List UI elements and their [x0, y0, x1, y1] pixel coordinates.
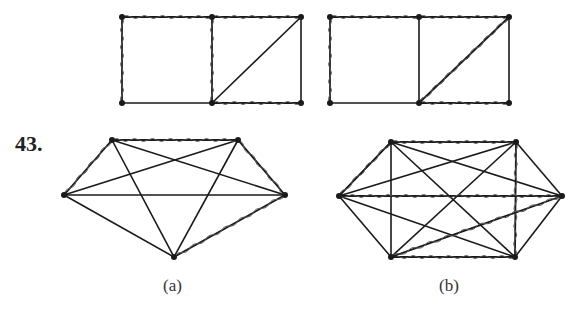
figure-label-b: (b)	[439, 276, 459, 296]
graph-vertex	[209, 100, 215, 106]
circuit-wave-mark	[391, 141, 516, 144]
graph-vertex	[559, 193, 565, 199]
graph-vertex	[336, 193, 342, 199]
graph-vertex	[119, 100, 125, 106]
graph-vertex	[235, 137, 241, 143]
graph-vertex	[506, 100, 512, 106]
graph-vertex	[171, 254, 177, 260]
top-right-grid-figure	[327, 14, 512, 106]
complete-graph-k5-figure	[61, 137, 288, 260]
top-left-grid-figure	[119, 14, 304, 106]
graph-vertex	[119, 14, 125, 20]
circuit-wave-mark	[419, 17, 509, 103]
graph-vertex	[209, 14, 215, 20]
complete-graph-k6-figure	[336, 139, 565, 260]
graph-vertex	[388, 139, 394, 145]
graph-vertex	[416, 14, 422, 20]
graph-vertex	[298, 100, 304, 106]
graph-vertex	[109, 137, 115, 143]
circuit-wave-mark	[391, 196, 562, 257]
graph-vertex	[282, 192, 288, 198]
graph-vertex	[506, 14, 512, 20]
graph-vertex	[513, 139, 519, 145]
graph-vertex	[388, 254, 394, 260]
graph-edge	[212, 17, 301, 103]
circuit-wave-mark	[391, 256, 515, 259]
graph-edge	[391, 142, 562, 196]
graph-edge	[112, 140, 285, 195]
circuit-wave-mark	[112, 139, 238, 142]
graph-vertex	[512, 254, 518, 260]
figure-label-a: (a)	[163, 276, 182, 296]
graph-vertex	[327, 100, 333, 106]
graph-vertex	[416, 100, 422, 106]
graph-diagram-canvas	[0, 0, 581, 309]
graph-vertex	[61, 192, 67, 198]
graph-vertex	[298, 14, 304, 20]
problem-number: 43.	[15, 131, 43, 157]
graph-vertex	[327, 14, 333, 20]
